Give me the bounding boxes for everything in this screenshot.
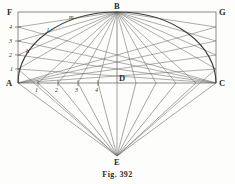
bottom-scale-label-4: 4 [95, 87, 98, 93]
point-label-C: C [219, 79, 225, 88]
left-scale-label-2: 2 [9, 52, 12, 58]
fan-lines-to-E [18, 83, 216, 156]
rays-from-B-to-left-ticks [18, 12, 117, 69]
figure-page: F B G A D C E 4 3 2 1 1 2 3 4 h l m Fig.… [0, 0, 235, 184]
bottom-scale-label-1: 1 [35, 87, 38, 93]
minor-label-l: l [47, 27, 49, 34]
rays-from-B-to-right-ticks [117, 12, 216, 69]
point-label-F: F [7, 8, 12, 17]
point-label-E: E [114, 158, 120, 167]
bottom-scale-label-3: 3 [75, 87, 78, 93]
left-scale-label-1: 1 [10, 66, 13, 72]
minor-label-h: h [26, 48, 29, 55]
minor-label-m: m [69, 14, 74, 21]
point-label-G: G [219, 8, 226, 17]
left-scale-label-3: 3 [9, 38, 12, 44]
figure-caption: Fig. 392 [0, 170, 235, 179]
bottom-scale-label-2: 2 [55, 87, 58, 93]
point-label-D: D [119, 74, 125, 83]
point-label-A: A [6, 79, 12, 88]
point-label-B: B [114, 2, 120, 11]
left-scale-label-4: 4 [9, 24, 12, 30]
